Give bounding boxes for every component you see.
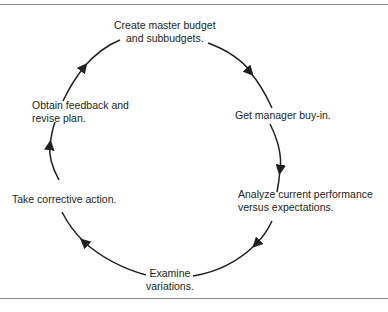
step-text-line: Examine — [146, 267, 194, 280]
arrow-corrective-to-feedback — [50, 145, 59, 180]
step-text-line: variations. — [146, 280, 194, 293]
arrow-analyze-to-examine — [256, 221, 272, 244]
cycle-arrows — [0, 0, 388, 312]
step-text-line: revise plan. — [32, 112, 129, 125]
step-analyze-performance: Analyze current performance versus expec… — [238, 188, 373, 214]
step-create-master-budget: Create master budget and subbudgets. — [114, 19, 216, 45]
step-obtain-feedback: Obtain feedback and revise plan. — [32, 99, 129, 125]
step-take-corrective-action: Take corrective action. — [12, 193, 116, 206]
step-get-manager-buy-in: Get manager buy-in. — [235, 109, 331, 122]
arrow-examine-to-corrective — [84, 242, 146, 275]
step-text-line: Analyze current performance — [238, 188, 373, 201]
step-text-line: and subbudgets. — [114, 32, 216, 45]
step-text-line: Obtain feedback and — [32, 99, 129, 112]
arrow-buyin-to-analyze — [270, 124, 281, 170]
step-text-line: Get manager buy-in. — [235, 109, 331, 122]
arrow-create-to-buyin — [208, 43, 252, 73]
step-text-line: Create master budget — [114, 19, 216, 32]
arrow-feedback-to-create — [63, 67, 84, 101]
step-text-line: versus expectations. — [238, 201, 373, 214]
step-examine-variations: Examine variations. — [146, 267, 194, 293]
step-text-line: Take corrective action. — [12, 193, 116, 206]
